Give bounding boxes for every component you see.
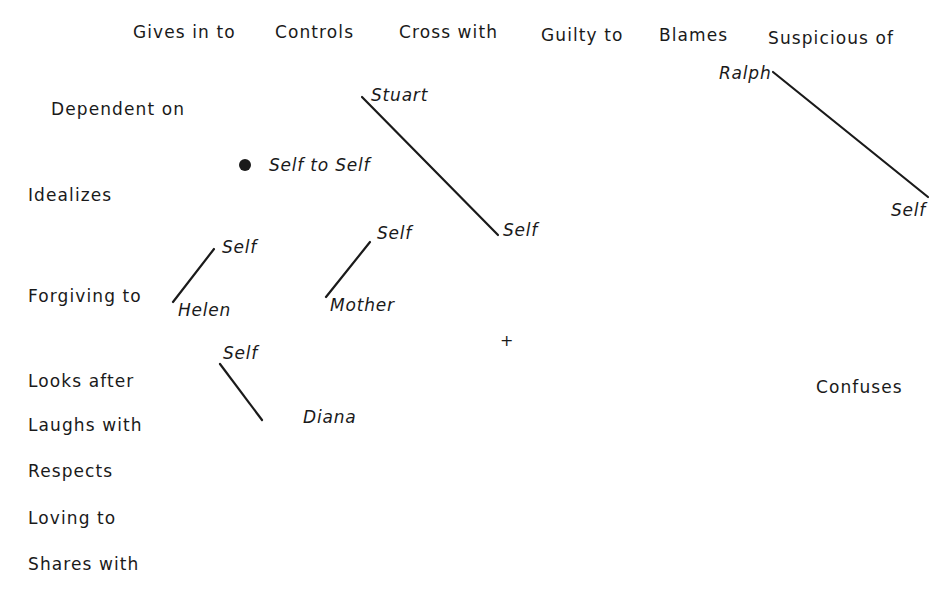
element-label-ralph: Ralph xyxy=(719,65,772,82)
construct-label-confuses: Confuses xyxy=(816,379,903,396)
element-label-self: Self xyxy=(377,225,412,242)
relationship-line-mother-self xyxy=(326,242,370,297)
construct-label-idealizes: Idealizes xyxy=(28,187,112,204)
element-label-self: Self xyxy=(891,202,926,219)
origin-plus-marker: + xyxy=(500,333,513,349)
construct-label-controls: Controls xyxy=(275,24,354,41)
construct-label-laughs-with: Laughs with xyxy=(28,417,143,434)
construct-label-loving-to: Loving to xyxy=(28,510,116,527)
element-label-mother: Mother xyxy=(330,297,395,314)
element-label-self: Self xyxy=(222,239,257,256)
element-label-stuart: Stuart xyxy=(371,87,428,104)
element-label-diana: Diana xyxy=(303,409,356,426)
construct-label-shares-with: Shares with xyxy=(28,556,140,573)
construct-label-forgiving-to: Forgiving to xyxy=(28,288,142,305)
construct-label-respects: Respects xyxy=(28,463,113,480)
construct-label-suspicious-of: Suspicious of xyxy=(768,30,894,47)
self-to-self-point xyxy=(239,159,251,171)
relationship-line-self-diana xyxy=(220,364,262,420)
construct-label-looks-after: Looks after xyxy=(28,373,134,390)
construct-label-cross-with: Cross with xyxy=(399,24,498,41)
diagram-lines-layer xyxy=(0,0,946,599)
relationship-line-stuart-self xyxy=(362,97,498,235)
construct-label-guilty-to: Guilty to xyxy=(541,27,624,44)
construct-label-gives-in-to: Gives in to xyxy=(133,24,236,41)
construct-label-blames: Blames xyxy=(659,27,728,44)
relationship-line-helen-self xyxy=(173,249,214,302)
element-label-self: Self xyxy=(223,345,258,362)
element-label-self-to-self: Self to Self xyxy=(269,157,370,174)
construct-label-dependent-on: Dependent on xyxy=(51,101,185,118)
element-label-self: Self xyxy=(503,222,538,239)
relationship-line-ralph-self xyxy=(773,72,928,197)
element-label-helen: Helen xyxy=(178,302,231,319)
